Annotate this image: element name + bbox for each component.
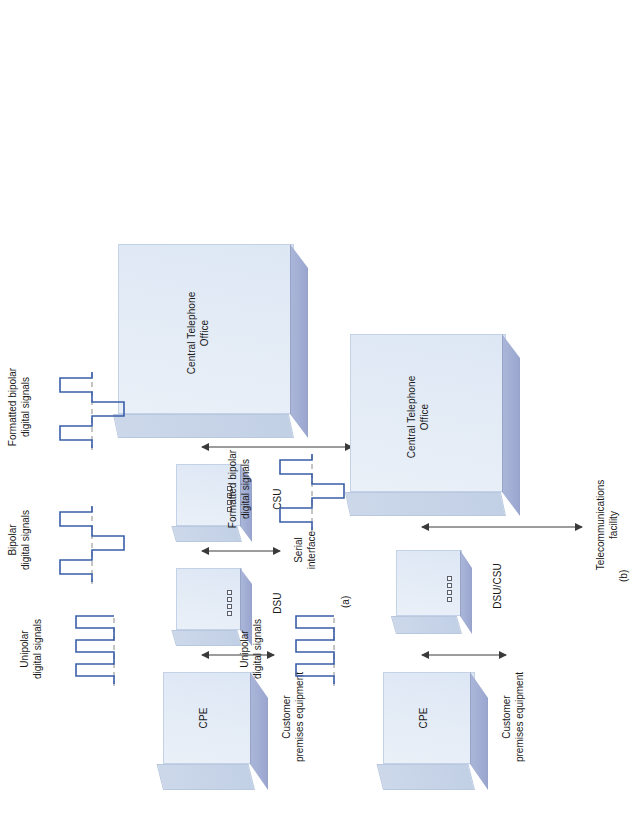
slab-side-face — [391, 616, 462, 634]
formatted-bipolar-waveform-svg — [268, 454, 354, 532]
bipolar-waveform-svg — [48, 506, 134, 584]
formatted-label-line1: Formatted bipolar — [7, 368, 18, 446]
cpe-sub-line2: premises equipment — [514, 672, 525, 762]
arrow-shaft — [422, 527, 582, 528]
figure-canvas-b: CPE Customer premises equipment DSU/CSU — [220, 0, 634, 832]
unipolar-waveform-svg — [58, 614, 128, 686]
node-dsucsu-b — [388, 538, 472, 634]
telecom-facility-line2: facility — [608, 511, 619, 539]
unipolar-label-line2: digital signals — [252, 619, 263, 679]
formatted-bipolar-waveform-svg — [48, 372, 134, 450]
link-cpe-dsucsu-b — [422, 650, 506, 660]
node-cpe-a-label: CPE — [198, 646, 211, 790]
formatted-label-line2: digital signals — [20, 377, 31, 437]
node-cpe-b-label: CPE — [418, 646, 431, 790]
arrow-head-left — [201, 443, 209, 451]
telecom-facility-line1: Telecommunications — [595, 480, 606, 571]
node-cto-a-label: Central Telephone Office — [186, 238, 211, 428]
unipolar-trace — [76, 616, 114, 684]
bipolar-label-line2: digital signals — [20, 510, 31, 570]
unipolar-label-line1: Unipolar — [239, 630, 250, 667]
dsucsu-led-indicators — [447, 576, 452, 602]
led-4 — [447, 576, 452, 581]
bipolar-label-line1: Bipolar — [7, 524, 18, 555]
node-dsucsu-b-label: DSU/CSU — [492, 536, 505, 636]
cto-label-line2: Office — [419, 404, 430, 431]
cto-label-line1: Central Telephone — [406, 376, 417, 459]
link-dsucsu-cto-b — [422, 522, 582, 532]
cto-label-line2: Office — [199, 320, 210, 347]
waveform-unipolar-a-label: Unipolar digital signals — [18, 594, 44, 704]
arrow-head-right — [575, 523, 583, 531]
unipolar-label-line2: digital signals — [32, 619, 43, 679]
arrow-shaft — [422, 655, 506, 656]
cto-label-line1: Central Telephone — [186, 292, 197, 375]
arrow-head-left — [201, 547, 209, 555]
waveform-unipolar-a — [58, 614, 128, 686]
arrow-head-right — [499, 651, 507, 659]
unipolar-label-line1: Unipolar — [19, 630, 30, 667]
waveform-bipolar-a — [48, 506, 134, 584]
arrow-head-left — [421, 523, 429, 531]
led-2 — [447, 590, 452, 595]
arrow-head-left — [421, 651, 429, 659]
slab-bottom-face — [460, 550, 472, 634]
waveform-unipolar-b-label: Unipolar digital signals — [238, 594, 264, 704]
waveform-formatted-b — [268, 454, 354, 532]
tall-bottom-face — [502, 334, 520, 516]
node-cto-b-label: Central Telephone Office — [406, 324, 431, 510]
waveform-formatted-a-label: Formatted bipolar digital signals — [6, 342, 32, 472]
panel-b: CPE Customer premises equipment DSU/CSU — [220, 0, 634, 832]
waveform-formatted-b-label: Formatted bipolar digital signals — [226, 424, 252, 554]
led-1 — [447, 597, 452, 602]
waveform-unipolar-b — [278, 614, 348, 686]
waveform-bipolar-a-label: Bipolar digital signals — [6, 488, 32, 592]
unipolar-trace — [296, 616, 334, 684]
formatted-label-line2: digital signals — [240, 459, 251, 519]
arrow-head-left — [201, 651, 209, 659]
slab-front-face — [396, 550, 462, 616]
waveform-formatted-a — [48, 372, 134, 450]
cube-bottom-face — [470, 672, 488, 790]
formatted-label-line1: Formatted bipolar — [227, 450, 238, 528]
panel-b-caption: (b) — [618, 570, 629, 582]
link-dsucsu-cto-b-label: Telecommunications facility — [594, 460, 620, 590]
cpe-sub-line1: Customer — [501, 695, 512, 738]
led-3 — [447, 583, 452, 588]
unipolar-waveform-svg — [278, 614, 348, 686]
